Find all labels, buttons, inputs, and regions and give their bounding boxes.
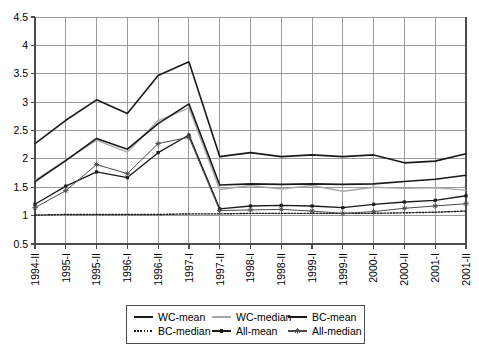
x-axis-tick-label: 1996-I	[121, 253, 133, 283]
chart-legend: WC-meanWC-medianBC-meanBC-medianAll-mean…	[126, 305, 364, 343]
data-point-marker	[280, 204, 283, 207]
data-point-marker	[341, 206, 344, 209]
data-point-marker	[220, 329, 223, 332]
legend-label: All-mean	[236, 325, 278, 337]
x-axis-tick-label: 1998-I	[244, 253, 256, 283]
data-point-marker	[295, 328, 301, 334]
legend-label: All-median	[312, 325, 362, 337]
y-axis-tick-label: 4.5	[13, 11, 28, 23]
y-axis-tick-label: 2	[22, 152, 28, 164]
data-point-marker	[403, 200, 406, 203]
y-axis-tick-label: 3.5	[13, 67, 28, 79]
data-point-marker	[278, 207, 284, 213]
x-axis-tick-label: 1999-II	[337, 253, 349, 286]
x-axis-tick-label: 2001-II	[460, 253, 472, 286]
x-axis-tick-label: 1999-I	[306, 253, 318, 283]
data-point-marker	[464, 194, 467, 197]
x-axis-tick-label: 1995-II	[90, 253, 102, 286]
x-axis-tick-label: 1997-II	[214, 253, 226, 286]
y-axis-tick-label: 2.5	[13, 124, 28, 136]
data-point-marker	[309, 208, 315, 214]
data-point-marker	[64, 185, 67, 188]
data-point-marker	[432, 203, 438, 209]
x-axis-tick-label: 1994-II	[29, 253, 41, 286]
data-point-marker	[310, 204, 313, 207]
x-axis-tick-labels: 1994-II1995-I1995-II1996-I1996-II1997-I1…	[29, 253, 472, 286]
data-point-marker	[372, 203, 375, 206]
legend-label: BC-median	[158, 325, 211, 337]
data-point-marker	[126, 176, 129, 179]
y-axis-tick-label: 0.5	[13, 238, 28, 250]
x-axis-tick-label: 2000-II	[398, 253, 410, 286]
legend-label: WC-median	[236, 311, 292, 323]
data-point-marker	[249, 204, 252, 207]
line-chart: 0.511.522.533.544.5 1994-II1995-I1995-II…	[0, 0, 479, 349]
x-axis-tick-label: 1995-I	[60, 253, 72, 283]
x-axis-tick-label: 1996-II	[152, 253, 164, 286]
legend-label: BC-mean	[312, 311, 357, 323]
data-point-marker	[32, 205, 38, 211]
y-axis-tick-label: 1	[22, 209, 28, 221]
x-axis-tick-label: 2000-I	[367, 253, 379, 283]
data-point-marker	[434, 199, 437, 202]
chart-canvas: 0.511.522.533.544.5 1994-II1995-I1995-II…	[0, 0, 479, 349]
data-point-marker	[157, 151, 160, 154]
y-axis-tick-label: 3	[22, 96, 28, 108]
data-point-marker	[95, 170, 98, 173]
legend-label: WC-mean	[158, 311, 205, 323]
chart-background	[0, 0, 479, 349]
x-axis-tick-label: 1998-II	[275, 253, 287, 286]
x-axis-tick-label: 2001-I	[429, 253, 441, 283]
y-axis-tick-label: 1.5	[13, 181, 28, 193]
y-axis-tick-label: 4	[22, 39, 28, 51]
x-axis-tick-label: 1997-I	[183, 253, 195, 283]
